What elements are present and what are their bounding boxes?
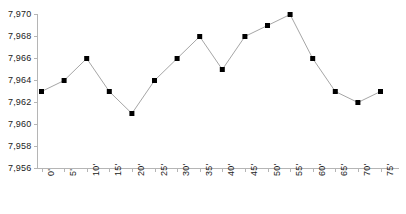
x-axis-tick-label: 30': [181, 163, 191, 175]
data-point: [355, 100, 360, 105]
x-axis-tick-label: 65': [339, 163, 349, 175]
line-chart: 7,9567,9587,9607,9627,9647,9667,9687,970…: [0, 0, 406, 214]
x-axis-tick-label: 55': [294, 163, 304, 175]
data-point: [288, 12, 293, 17]
data-point: [84, 56, 89, 61]
x-axis-tick-label: 0': [46, 168, 56, 175]
data-point: [107, 89, 112, 94]
x-axis-tick-label: 60': [317, 163, 327, 175]
x-axis-tick-label: 75': [385, 163, 395, 175]
data-point: [62, 78, 67, 83]
x-axis-tick-label: 20': [136, 163, 146, 175]
y-axis-tick-label: 7,970: [0, 9, 32, 19]
x-axis-tick-label: 15': [113, 163, 123, 175]
data-point: [378, 89, 383, 94]
data-point: [152, 78, 157, 83]
data-point: [333, 89, 338, 94]
x-axis-tick-label: 10': [91, 163, 101, 175]
data-point: [129, 111, 134, 116]
chart-canvas: [0, 0, 406, 214]
x-axis-tick-label: 45': [249, 163, 259, 175]
x-axis-tick-label: 35': [204, 163, 214, 175]
y-axis-tick-label: 7,958: [0, 141, 32, 151]
y-axis-tick-label: 7,966: [0, 53, 32, 63]
x-axis-tick-label: 40': [226, 163, 236, 175]
y-axis-tick-label: 7,960: [0, 119, 32, 129]
y-axis-tick-label: 7,968: [0, 31, 32, 41]
data-line: [42, 15, 381, 114]
y-axis-ticks: [34, 15, 38, 169]
y-axis-tick-label: 7,962: [0, 97, 32, 107]
axis-lines: [38, 14, 400, 169]
x-axis-tick-label: 70': [362, 163, 372, 175]
data-point: [39, 89, 44, 94]
x-axis-tick-label: 25': [159, 163, 169, 175]
data-point: [220, 67, 225, 72]
y-axis-tick-label: 7,956: [0, 163, 32, 173]
data-point: [242, 34, 247, 39]
data-point: [310, 56, 315, 61]
data-point: [197, 34, 202, 39]
data-point: [265, 23, 270, 28]
y-axis-tick-label: 7,964: [0, 75, 32, 85]
x-axis-tick-label: 50': [272, 163, 282, 175]
x-axis-tick-label: 5': [68, 168, 78, 175]
data-point: [175, 56, 180, 61]
